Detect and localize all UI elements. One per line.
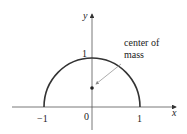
- semicircle-diagram: y x 1 −1 0 1 center of mass: [0, 0, 187, 134]
- annotation-pointer-arrow: [96, 64, 121, 84]
- y-tick-one: 1: [82, 48, 87, 59]
- x-tick-neg-one: −1: [37, 113, 48, 124]
- x-tick-one: 1: [137, 113, 142, 124]
- annotation-line-1: center of: [124, 37, 160, 48]
- x-axis-label: x: [171, 107, 177, 118]
- origin-label: 0: [84, 111, 89, 122]
- y-axis-label: y: [82, 10, 88, 21]
- annotation-line-2: mass: [124, 49, 144, 60]
- center-of-mass-point: [90, 86, 94, 90]
